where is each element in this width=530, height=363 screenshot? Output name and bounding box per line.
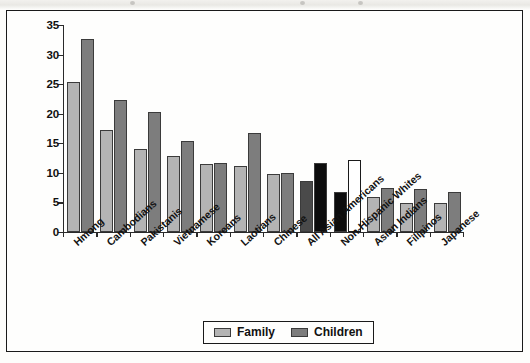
bar-children: [248, 133, 261, 232]
bar-group: [434, 25, 461, 232]
plot-area: 05101520253035: [63, 25, 463, 232]
x-tick: [96, 232, 97, 237]
poverty-rate-bar-chart-figure: 05101520253035 HmongCambodiansPakistanis…: [0, 0, 530, 363]
legend-entry: Children: [291, 325, 363, 339]
y-tick-label-25: 25: [47, 78, 59, 90]
y-tick-label-15: 15: [47, 137, 59, 149]
legend-label: Family: [237, 325, 275, 339]
legend-label: Children: [314, 325, 363, 339]
bar-family: [100, 130, 113, 232]
bar-group: [167, 25, 194, 232]
chart-legend: FamilyChildren: [203, 321, 374, 344]
bar-family: [67, 82, 80, 232]
legend-swatch-children: [291, 328, 308, 337]
chart-frame: 05101520253035 HmongCambodiansPakistanis…: [6, 10, 523, 352]
bar-group: [100, 25, 127, 232]
x-tick: [396, 232, 397, 237]
x-tick: [163, 232, 164, 237]
y-tick-label-20: 20: [47, 108, 59, 120]
y-tick-label-5: 5: [53, 196, 59, 208]
legend-swatch-family: [214, 328, 231, 337]
x-tick: [330, 232, 331, 237]
bar-group: [300, 25, 327, 232]
x-tick: [463, 232, 464, 237]
bar-group: [267, 25, 294, 232]
x-tick: [230, 232, 231, 237]
scan-artifact-strip: [0, 0, 530, 9]
y-tick-label-35: 35: [47, 19, 59, 31]
legend-entry: Family: [214, 325, 275, 339]
bar-group: [234, 25, 261, 232]
y-axis-line: [63, 25, 64, 232]
bar-children: [81, 39, 94, 232]
x-tick: [130, 232, 131, 237]
y-tick-label-30: 30: [47, 49, 59, 61]
bar-children: [114, 100, 127, 232]
y-tick-label-10: 10: [47, 167, 59, 179]
x-tick: [196, 232, 197, 237]
x-tick: [363, 232, 364, 237]
y-tick-label-0: 0: [53, 226, 59, 238]
x-tick: [63, 232, 64, 237]
x-tick: [263, 232, 264, 237]
x-tick: [296, 232, 297, 237]
bar-group: [67, 25, 94, 232]
x-tick: [430, 232, 431, 237]
